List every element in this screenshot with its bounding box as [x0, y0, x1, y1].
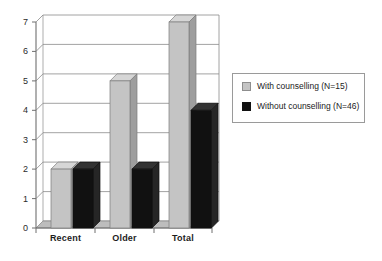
bar-chart: 7 6 5 4 3 2 1 0 Recent Older Total With … — [0, 0, 382, 261]
y-tick-label: 4 — [12, 106, 28, 115]
legend-swatch-black-icon — [242, 102, 251, 111]
legend-item-without-counselling: Without counselling (N=46) — [242, 102, 359, 111]
y-tick-label: 3 — [12, 136, 28, 145]
bar-recent-without-counselling — [73, 162, 100, 228]
y-tick-label: 1 — [12, 195, 28, 204]
legend-label: With counselling (N=15) — [257, 82, 347, 91]
y-tick-label: 7 — [12, 18, 28, 27]
y-tick-label: 6 — [12, 47, 28, 56]
plot-area — [0, 0, 382, 261]
legend-swatch-gray-icon — [242, 82, 251, 91]
x-axis-label-older: Older — [95, 234, 154, 243]
x-axis-label-total: Total — [154, 234, 212, 243]
bar-older-without-counselling — [132, 162, 159, 228]
legend-item-with-counselling: With counselling (N=15) — [242, 82, 347, 91]
x-axis-label-recent: Recent — [36, 234, 95, 243]
y-tick-label: 5 — [12, 77, 28, 86]
chart-legend: With counselling (N=15) Without counsell… — [232, 73, 365, 123]
bar-total-without-counselling — [191, 103, 218, 228]
y-tick-marks — [32, 22, 36, 228]
legend-label: Without counselling (N=46) — [257, 102, 359, 111]
y-tick-label: 2 — [12, 165, 28, 174]
y-tick-label: 0 — [12, 224, 28, 233]
